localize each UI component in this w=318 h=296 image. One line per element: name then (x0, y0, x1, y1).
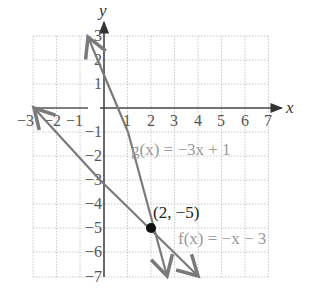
x-tick-labels: −3 −2 −1 1 2 3 4 5 6 7 (17, 112, 272, 129)
label-f: f(x) = −x − 3 (178, 229, 266, 248)
intersection-label: (2, −5) (153, 203, 199, 222)
graph: x y −3 −2 −1 1 2 3 4 5 6 7 3 2 1 −1 −2 −… (0, 0, 318, 296)
svg-text:−1: −1 (66, 112, 83, 129)
intersection-point (146, 223, 156, 233)
svg-text:−1: −1 (85, 123, 102, 140)
svg-text:6: 6 (241, 112, 249, 129)
svg-text:−7: −7 (85, 268, 102, 285)
svg-text:−3: −3 (17, 112, 34, 129)
svg-text:2: 2 (147, 112, 155, 129)
svg-text:7: 7 (264, 112, 272, 129)
svg-text:−2: −2 (85, 147, 102, 164)
y-axis-label: y (97, 1, 107, 20)
svg-text:3: 3 (170, 112, 178, 129)
label-g: g(x) = −3x + 1 (131, 140, 231, 159)
svg-text:4: 4 (194, 112, 202, 129)
svg-text:3: 3 (94, 27, 102, 44)
svg-text:−4: −4 (85, 195, 102, 212)
svg-text:−5: −5 (85, 219, 102, 236)
svg-text:5: 5 (217, 112, 225, 129)
svg-text:−6: −6 (85, 243, 102, 260)
x-axis-label: x (285, 98, 294, 117)
svg-text:1: 1 (94, 75, 102, 92)
